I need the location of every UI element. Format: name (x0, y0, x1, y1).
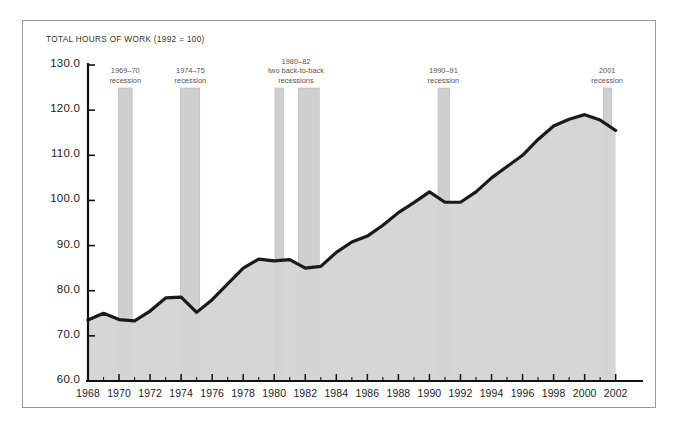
recession-label-text: recession (562, 76, 652, 86)
recession-label-years: 1990–91 (398, 66, 488, 76)
series-area-fill (88, 115, 616, 381)
recession-annotation-rec-2001: 2001recession (562, 66, 652, 85)
y-axis-tick-label: 120.0 (40, 102, 80, 114)
x-axis-tick-label: 2002 (596, 387, 636, 399)
chart-page: TOTAL HOURS OF WORK (1992 = 100) 130.012… (0, 0, 677, 427)
y-axis-tick-label: 70.0 (40, 328, 80, 340)
recession-label-text: recession (398, 76, 488, 86)
recession-label-text-2: recessions (251, 76, 341, 86)
recession-annotation-rec-1980-82: 1980–82two back-to-backrecessions (251, 57, 341, 86)
recession-label-years: 2001 (562, 66, 652, 76)
y-axis-tick-label: 80.0 (40, 283, 80, 295)
y-axis-tick-label: 90.0 (40, 238, 80, 250)
recession-label-text: recession (145, 76, 235, 86)
y-axis-tick-label: 130.0 (40, 57, 80, 69)
y-axis-tick-label: 100.0 (40, 192, 80, 204)
y-axis-tick-label: 110.0 (40, 147, 80, 159)
recession-annotation-rec-1990-91: 1990–91recession (398, 66, 488, 85)
recession-label-years: 1974–75 (145, 66, 235, 76)
y-axis-tick-label: 60.0 (40, 373, 80, 385)
recession-annotation-rec-1974-75: 1974–75recession (145, 66, 235, 85)
recession-label-years: 1980–82 (251, 57, 341, 67)
recession-label-text: two back-to-back (251, 66, 341, 76)
